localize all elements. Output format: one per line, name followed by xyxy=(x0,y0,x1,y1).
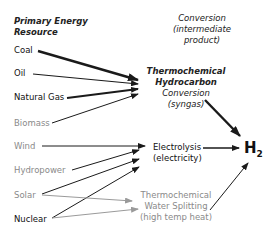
source-header-line-2: Resource xyxy=(14,27,88,38)
thermo-hydrocarbon-line-3: Conversion xyxy=(140,88,232,99)
conversion-column-header: Conversion (intermediate product) xyxy=(172,13,232,46)
thermo-hydrocarbon-line-4: (syngas) xyxy=(140,99,232,110)
conversion-electrolysis: Electrolysis (electricity) xyxy=(153,142,202,164)
arrow-gas-to-syngas xyxy=(67,89,138,98)
h2-symbol: H xyxy=(244,139,257,157)
conversion-header-line-1: Conversion xyxy=(172,13,232,24)
electrolysis-line-1: Electrolysis xyxy=(153,142,202,153)
thermo-water-line-1: Thermochemical xyxy=(140,190,212,201)
conversion-thermochemical-water-splitting: Thermochemical Water Splitting (high tem… xyxy=(140,190,212,223)
resource-natural-gas: Natural Gas xyxy=(14,92,64,103)
resource-oil: Oil xyxy=(14,68,25,79)
resource-solar: Solar xyxy=(14,190,36,201)
resource-nuclear: Nuclear xyxy=(14,214,47,225)
arrow-watersplit-to-h2 xyxy=(210,163,248,210)
arrow-biomass-to-syngas xyxy=(52,94,138,123)
thermo-water-line-3: (high temp heat) xyxy=(140,212,212,223)
conversion-header-line-3: product) xyxy=(172,35,232,46)
h2-subscript: 2 xyxy=(257,149,263,159)
conversion-thermochemical-hydrocarbon: Thermochemical Hydrocarbon Conversion (s… xyxy=(140,66,232,110)
resource-wind: Wind xyxy=(14,141,35,152)
product-h2: H2 xyxy=(244,139,263,159)
conversion-header-line-2: (intermediate xyxy=(172,24,232,35)
thermo-hydrocarbon-line-2: Hydrocarbon xyxy=(140,77,232,88)
thermo-water-line-2: Water Splitting xyxy=(140,201,212,212)
resource-hydropower: Hydropower xyxy=(14,165,66,176)
thermo-hydrocarbon-line-1: Thermochemical xyxy=(140,66,232,77)
resource-coal: Coal xyxy=(14,45,33,56)
arrow-solar-to-watersplit xyxy=(42,195,132,201)
arrow-hydro-to-electrolysis xyxy=(72,150,139,170)
resource-biomass: Biomass xyxy=(14,118,50,129)
electrolysis-line-2: (electricity) xyxy=(153,153,202,164)
source-header-line-1: Primary Energy xyxy=(14,16,88,27)
source-column-header: Primary Energy Resource xyxy=(14,16,88,38)
